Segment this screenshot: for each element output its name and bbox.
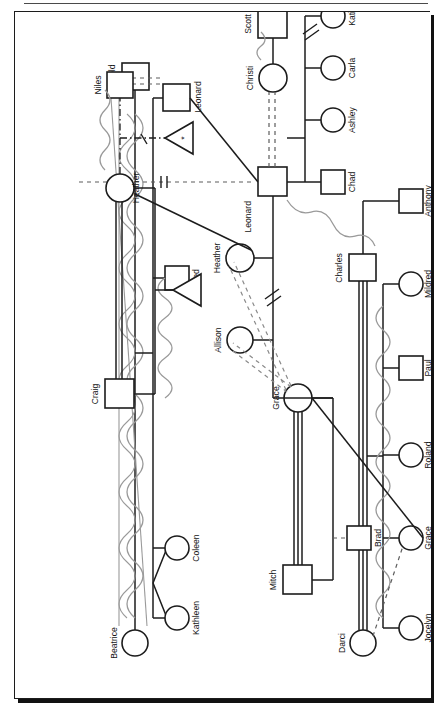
label-pregnancy-mark: * <box>179 136 189 140</box>
label-jocelyn: Jocelyn <box>423 613 431 642</box>
label-charles: Charles <box>334 253 344 283</box>
label-heather-mid: Heather <box>212 243 222 274</box>
figure-frame: Figure 11: Genogram Step 4: Interpersona… <box>14 11 430 699</box>
label-chad: Chad <box>347 172 357 193</box>
label-darci: Darci <box>337 633 347 653</box>
label-kathleen: Kathleen <box>191 601 201 635</box>
label-craig: Craig <box>90 384 100 405</box>
label-niles: Niles <box>93 75 103 94</box>
label-ashley: Ashley <box>347 106 357 132</box>
label-grace-top: Grace <box>423 526 431 550</box>
label-anthony: Anthony <box>423 185 431 217</box>
label-roland: Roland <box>423 441 431 468</box>
label-christi: Christi <box>245 66 255 90</box>
label-beatrice: Beatrice <box>109 627 119 659</box>
label-allison: Allison <box>213 327 223 353</box>
label-carla: Carla <box>347 58 357 79</box>
label-katie: Katie <box>347 12 357 26</box>
top-rule <box>24 3 428 4</box>
genogram-canvas: .ln { stroke:#1c1c1c; stroke-width:1.5; … <box>15 12 431 698</box>
label-mitch: Mitch <box>268 570 278 591</box>
label-leonard-mid: Leonard <box>243 201 253 233</box>
label-coleen: Coleen <box>191 534 201 561</box>
figure-page: Figure 11: Genogram Step 4: Interpersona… <box>0 0 448 707</box>
label-paul: Paul <box>423 359 431 376</box>
genogram-canvas-wrap: .ln { stroke:#1c1c1c; stroke-width:1.5; … <box>15 12 431 698</box>
label-scott: Scott <box>243 14 253 34</box>
label-brad: Brad <box>373 529 383 547</box>
label-mildred: Mildred <box>423 270 431 298</box>
